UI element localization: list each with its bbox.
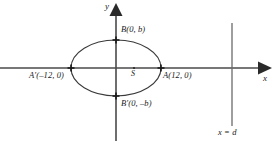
point-label-B: B(0, b) [121, 25, 145, 34]
ellipse-figure: B(0, b) A′(–12, 0) A(12, 0) B′(0, –b) S … [0, 0, 280, 151]
point-label-B-prime: B′(0, –b) [121, 99, 152, 108]
directrix-label: x = d [218, 128, 237, 137]
point-label-S: S [131, 70, 135, 78]
x-axis-label: x [263, 74, 267, 83]
point-label-A-prime: A′(–12, 0) [29, 71, 64, 80]
point-label-A: A(12, 0) [163, 71, 192, 80]
y-axis-label: y [105, 2, 109, 11]
y-axis-arrowhead [110, 3, 123, 16]
